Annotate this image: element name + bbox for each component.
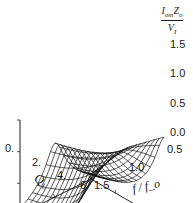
- z-tick-1.0: 1.0: [170, 68, 185, 79]
- z-tick-1.5: 1.5: [170, 39, 185, 50]
- x-tick-6: 6.: [80, 180, 89, 191]
- z-axis-label: IomZo VI: [152, 5, 192, 36]
- x-tick-2: 2.: [32, 157, 41, 168]
- z-tick-0.5: 0.5: [170, 98, 185, 109]
- y-tick-0.5: 0.5: [167, 144, 182, 155]
- z-tick-0.0: 0.0: [170, 127, 185, 138]
- x-tick-4: 4.: [57, 170, 66, 181]
- y-tick-1.0: 1.0: [129, 162, 144, 173]
- y-tick-1.5: 1.5: [94, 180, 109, 191]
- x-tick-0: 0.: [5, 143, 14, 154]
